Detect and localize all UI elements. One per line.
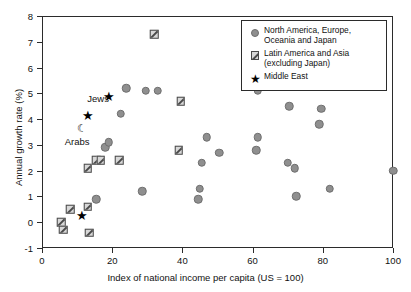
data-point-circle [389, 166, 398, 175]
y-tick [37, 93, 42, 94]
legend-item-label: North America, Europe, Oceania and Japan [264, 26, 382, 45]
y-tick [37, 171, 42, 172]
x-tick [182, 248, 183, 253]
y-tick-label: 8 [11, 11, 33, 22]
data-point-star: ★ [76, 212, 88, 222]
x-tick-label: 60 [247, 255, 258, 266]
legend-marker: ★ [246, 72, 264, 85]
y-tick [37, 16, 42, 17]
data-point-circle [154, 87, 163, 96]
x-tick-label: 0 [39, 255, 44, 266]
x-tick-label: 80 [318, 255, 329, 266]
data-point-circle [290, 164, 299, 173]
data-point-circle [292, 192, 301, 201]
y-tick [37, 196, 42, 197]
data-point-square [115, 156, 124, 165]
crescent-moon-icon: ☾ [76, 124, 88, 134]
legend-item-label: Middle East [264, 72, 308, 82]
x-tick-label: 20 [107, 255, 118, 266]
legend-hatched-square-icon [251, 51, 260, 60]
data-point-circle [194, 195, 203, 204]
data-point-circle [104, 138, 113, 147]
data-point-circle [138, 187, 147, 196]
data-point-circle [317, 105, 326, 114]
x-tick [323, 248, 324, 253]
annotation-label: Arabs [65, 136, 90, 147]
data-point-square [97, 156, 106, 165]
legend-item[interactable]: Latin America and Asia (excluding Japan) [246, 49, 382, 68]
y-tick-label: 7 [11, 36, 33, 47]
x-tick [253, 248, 254, 253]
y-tick [37, 145, 42, 146]
annotation-label: Jews [87, 93, 109, 104]
data-point-circle [252, 146, 261, 155]
chart-canvas: -1012345678 020406080100 ★★★ JewsArabs☾ … [0, 0, 411, 292]
data-point-square [83, 164, 92, 173]
x-tick [393, 248, 394, 253]
y-tick [37, 222, 42, 223]
y-tick-label: 0 [11, 217, 33, 228]
legend-item-label: Latin America and Asia (excluding Japan) [264, 49, 382, 68]
data-point-circle [285, 102, 294, 111]
data-point-circle [315, 120, 324, 129]
data-point-circle [203, 133, 212, 142]
legend-item[interactable]: ★Middle East [246, 72, 382, 85]
x-tick-label: 100 [385, 255, 401, 266]
x-tick [112, 248, 113, 253]
data-point-circle [141, 87, 150, 96]
data-point-square [150, 30, 159, 39]
data-point-star: ★ [82, 112, 94, 122]
x-tick-label: 40 [177, 255, 188, 266]
data-point-square [176, 97, 185, 106]
data-point-square [175, 146, 184, 155]
data-point-circle [92, 195, 101, 204]
data-point-circle [197, 159, 206, 168]
y-tick [37, 42, 42, 43]
data-point-circle [215, 148, 224, 157]
cropped-title-strip [0, 0, 411, 8]
chart-legend: North America, Europe, Oceania and Japan… [241, 20, 387, 91]
x-axis-title: Index of national income per capita (US … [0, 272, 411, 283]
data-point-square [85, 228, 94, 237]
data-point-circle [254, 133, 263, 142]
legend-marker [246, 26, 264, 39]
legend-circle-icon [251, 29, 259, 37]
x-tick [42, 248, 43, 253]
y-tick-label: -1 [11, 243, 33, 254]
y-tick [37, 68, 42, 69]
legend-star-icon: ★ [250, 74, 261, 84]
data-point-square [66, 205, 75, 214]
data-point-square [59, 226, 68, 235]
y-axis-title: Annual growth rate (%) [13, 58, 24, 218]
legend-marker [246, 49, 264, 62]
data-point-circle [122, 84, 131, 93]
data-point-circle [117, 110, 126, 119]
legend-item[interactable]: North America, Europe, Oceania and Japan [246, 26, 382, 45]
data-point-circle [326, 184, 335, 193]
y-tick [37, 119, 42, 120]
data-point-circle [196, 184, 205, 193]
